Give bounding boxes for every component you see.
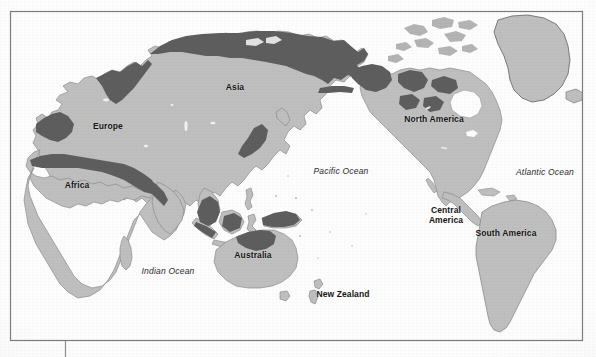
world-map-graphic xyxy=(0,0,596,357)
world-map-figure: Asia Europe Africa Australia New Zealand… xyxy=(0,0,596,357)
